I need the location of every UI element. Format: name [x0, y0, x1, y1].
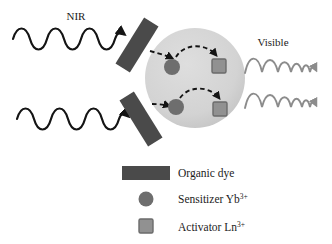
legend-swatch-organic-dye [122, 166, 170, 180]
activator-upper [212, 59, 226, 73]
legend-activator-text: Activator Ln [178, 221, 237, 233]
legend-sensitizer-charge: 3+ [240, 192, 248, 201]
sensitizer-upper [164, 59, 180, 75]
legend-swatch-activator [139, 219, 153, 233]
diagram-canvas: NIR Visible Organic dye Sensitizer Yb3+ … [0, 0, 332, 244]
activator-lower [213, 102, 227, 116]
legend: Organic dye Sensitizer Yb3+ Activator Ln… [122, 166, 248, 233]
nir-wave-upper [13, 29, 124, 50]
legend-activator-charge: 3+ [237, 220, 245, 229]
nir-label: NIR [67, 10, 87, 22]
legend-sensitizer-text: Sensitizer Yb [178, 193, 240, 205]
legend-label-organic-dye: Organic dye [178, 167, 234, 180]
legend-label-activator: Activator Ln3+ [178, 220, 245, 233]
nir-wave-lower [17, 109, 128, 130]
visible-wave-upper [245, 59, 316, 73]
nanoparticle-sphere [145, 28, 245, 128]
legend-swatch-sensitizer [139, 192, 154, 207]
visible-label: Visible [257, 36, 288, 48]
upconversion-nanoparticle-diagram: NIR Visible Organic dye Sensitizer Yb3+ … [0, 0, 332, 244]
sensitizer-lower [168, 99, 184, 115]
legend-label-sensitizer: Sensitizer Yb3+ [178, 192, 248, 205]
visible-wave-lower [245, 94, 316, 108]
